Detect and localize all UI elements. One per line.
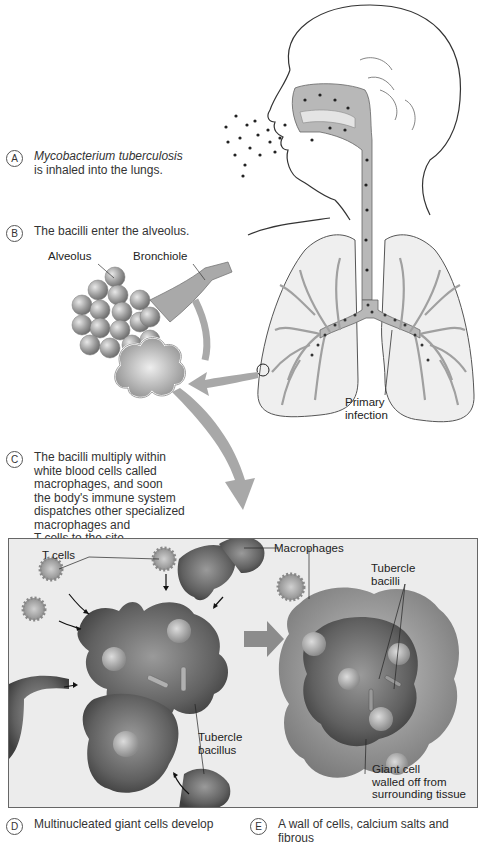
step-badge-d: D: [6, 818, 23, 835]
label-macrophages: Macrophages: [274, 542, 344, 555]
step-a: A Mycobacterium tuberculosis is inhaled …: [6, 150, 183, 177]
step-c: C The bacilli multiply within white bloo…: [6, 451, 185, 546]
label-giant-cell: Giant cell walled off from surrounding t…: [372, 763, 466, 801]
label-tubercle-bacillus: Tubercle bacillus: [198, 731, 242, 756]
step-a-text: is inhaled into the lungs.: [34, 164, 183, 178]
giant-cell-cluster: [279, 587, 459, 777]
step-badge-b: B: [6, 225, 23, 242]
step-badge-c: C: [6, 451, 23, 468]
step-b: B The bacilli enter the alveolus.: [6, 225, 189, 242]
progression-arrow: [244, 621, 284, 657]
label-tubercle-bacilli: Tubercle bacilli: [371, 562, 415, 587]
step-a-organism: Mycobacterium tuberculosis: [34, 150, 183, 164]
alveolus-cluster: [72, 262, 232, 398]
step-badge-a: A: [6, 150, 23, 167]
label-bronchiole: Bronchiole: [133, 250, 187, 263]
arrow-to-alveolus: [188, 372, 258, 396]
label-alveolus: Alveolus: [48, 250, 91, 263]
step-c-text: The bacilli multiply within white blood …: [34, 451, 185, 546]
step-badge-e: E: [250, 818, 267, 835]
step-b-text: The bacilli enter the alveolus.: [34, 225, 189, 239]
step-d: D Multinucleated giant cells develop: [6, 818, 213, 835]
label-primary-infection: Primary infection: [345, 396, 388, 421]
step-e: E A wall of cells, calcium salts and fib…: [250, 818, 478, 845]
step-e-text: A wall of cells, calcium salts and fibro…: [278, 818, 478, 845]
step-d-text: Multinucleated giant cells develop: [34, 818, 213, 832]
label-t-cells: T cells: [42, 549, 75, 562]
immune-response-panel: T cells Macrophages Tubercle bacilli Tub…: [8, 538, 478, 808]
